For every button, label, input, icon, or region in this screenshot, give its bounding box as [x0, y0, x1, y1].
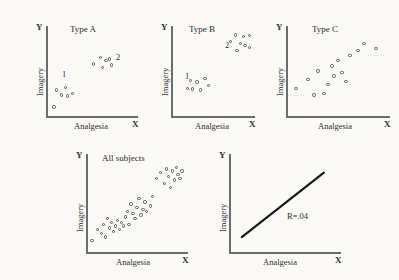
- data-point: [159, 171, 162, 174]
- y-axis-line: [46, 26, 48, 116]
- y-axis-label: Imagery: [76, 204, 85, 232]
- data-point: [110, 221, 113, 224]
- data-point: [306, 78, 309, 81]
- data-point: [234, 33, 237, 36]
- y-axis-line: [171, 26, 173, 116]
- x-axis-line: [46, 116, 138, 118]
- data-point: [186, 87, 189, 90]
- x-axis-line: [286, 116, 390, 118]
- data-point: [139, 213, 142, 216]
- cluster-label-1: 1: [62, 70, 66, 79]
- data-point: [90, 239, 93, 242]
- data-point: [118, 228, 121, 231]
- data-point: [104, 235, 107, 238]
- data-point: [243, 44, 246, 47]
- y-axis-label: Imagery: [276, 68, 285, 96]
- data-point: [171, 169, 174, 172]
- panel-title-all-subjects: All subjects: [102, 154, 145, 163]
- data-point: [195, 80, 198, 83]
- data-point: [199, 88, 202, 91]
- data-point: [235, 49, 238, 52]
- data-point: [114, 224, 117, 227]
- y-axis-tip: Y: [161, 23, 168, 32]
- data-point: [340, 71, 343, 74]
- data-point: [316, 69, 319, 72]
- data-point: [66, 94, 69, 97]
- data-point: [207, 84, 210, 87]
- x-axis-tip: X: [182, 256, 189, 265]
- data-point: [294, 87, 297, 90]
- data-point: [312, 93, 315, 96]
- data-point: [129, 202, 132, 205]
- data-point: [52, 105, 55, 108]
- data-point: [141, 208, 144, 211]
- data-point: [191, 87, 194, 90]
- panel-type-c: Y X Analgesia Imagery Type C: [262, 12, 394, 132]
- panel-title-type-a: Type A: [70, 25, 96, 34]
- data-point: [229, 40, 232, 43]
- data-point: [151, 195, 154, 198]
- cluster-label-1: 1: [185, 72, 189, 81]
- x-axis-tip: X: [384, 120, 391, 129]
- data-point: [239, 42, 242, 45]
- data-point: [163, 182, 166, 185]
- x-axis-tip: X: [249, 120, 256, 129]
- regression-line: [205, 146, 355, 274]
- data-point: [374, 47, 377, 50]
- data-point: [135, 206, 138, 209]
- data-point: [189, 79, 192, 82]
- plot-area-regression: Y X Analgesia Imagery R=.04: [205, 146, 355, 274]
- x-axis-label: Analgesia: [300, 122, 370, 131]
- data-point: [348, 54, 351, 57]
- data-point: [173, 178, 176, 181]
- data-point: [126, 210, 129, 213]
- data-point: [92, 62, 95, 65]
- data-point: [145, 210, 148, 213]
- data-point: [55, 88, 58, 91]
- panel-type-b: Y X Analgesia Imagery Type B 1 2: [147, 12, 257, 132]
- data-point: [362, 42, 365, 45]
- y-axis-line: [86, 154, 88, 252]
- data-point: [175, 166, 178, 169]
- data-point: [122, 224, 125, 227]
- data-point: [336, 59, 339, 62]
- data-point: [127, 223, 130, 226]
- panel-regression: Y X Analgesia Imagery R=.04: [205, 146, 355, 274]
- panel-type-a: Y X Analgesia Imagery Type A 1 2: [22, 12, 140, 132]
- data-point: [60, 93, 63, 96]
- panel-title-type-b: Type B: [189, 25, 215, 34]
- data-point: [99, 56, 102, 59]
- x-axis-label: Analgesia: [177, 122, 247, 131]
- data-point: [108, 226, 111, 229]
- data-point: [106, 217, 109, 220]
- x-axis-line: [86, 252, 188, 254]
- data-point: [167, 175, 170, 178]
- x-axis-label: Analgesia: [56, 122, 126, 131]
- data-point: [96, 228, 99, 231]
- y-axis-line: [286, 26, 288, 116]
- cluster-label-2: 2: [225, 41, 229, 50]
- data-point: [133, 217, 136, 220]
- data-point: [64, 86, 67, 89]
- data-point: [102, 223, 105, 226]
- y-axis-tip: Y: [76, 151, 83, 160]
- cluster-label-2: 2: [116, 53, 120, 62]
- panel-all-subjects: Y X Analgesia Imagery All subjects: [62, 146, 192, 274]
- data-point: [108, 57, 111, 60]
- data-point: [110, 63, 113, 66]
- data-point: [176, 173, 179, 176]
- data-point: [116, 219, 119, 222]
- data-point: [165, 167, 168, 170]
- data-point: [131, 212, 134, 215]
- y-axis-tip: Y: [36, 23, 43, 32]
- data-point: [344, 80, 347, 83]
- data-point: [143, 200, 146, 203]
- figure-container: Y X Analgesia Imagery Type A 1 2 Y X Ana…: [0, 0, 399, 280]
- plot-area-type-c: Y X Analgesia Imagery Type C: [262, 12, 394, 132]
- plot-area-type-a: Y X Analgesia Imagery Type A 1 2: [22, 12, 140, 132]
- data-point: [248, 46, 251, 49]
- y-axis-tip: Y: [276, 23, 283, 32]
- plot-area-type-b: Y X Analgesia Imagery Type B 1 2: [147, 12, 257, 132]
- data-point: [149, 204, 152, 207]
- data-point: [203, 77, 206, 80]
